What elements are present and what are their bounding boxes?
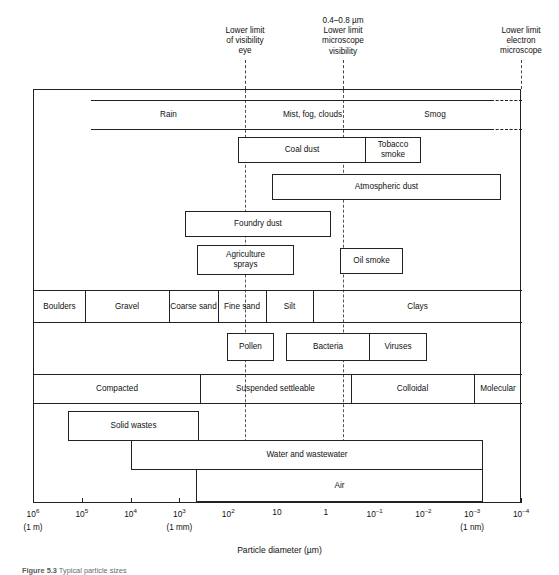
callout-electron-microscope: Lower limit electron microscope: [481, 26, 559, 57]
box-bacteria: Bacteria: [286, 333, 370, 361]
box-coal-dust: Coal dust: [238, 137, 366, 163]
box-oil-smoke: Oil smoke: [340, 248, 403, 274]
box-agriculture-sprays: Agriculture sprays: [197, 245, 294, 275]
segment-colloidal: Colloidal: [351, 374, 474, 404]
axis-unit-label: (1 nm): [460, 523, 484, 532]
segment-coarse-sand: Coarse sand: [169, 290, 218, 323]
callout-microscope-visibility: 0.4–0.8 µm Lower limit microscope visibi…: [303, 16, 383, 57]
axis-tick-label: 106: [27, 507, 40, 519]
figure-caption-label: Figure 5.3: [22, 566, 57, 575]
box-foundry-dust: Foundry dust: [185, 211, 331, 237]
axis-tick-label: 10–3: [464, 507, 480, 519]
row-meteorological-band-dashed-tail: [491, 100, 522, 130]
axis-tick-label: 105: [75, 507, 88, 519]
figure-caption: Figure 5.3 Typical particle sizes: [22, 566, 127, 575]
band-tail-rule-top: [491, 100, 522, 101]
axis-unit-label: (1 mm): [166, 523, 192, 532]
row-meteorological-band: Rain Mist, fog, clouds Smog: [91, 100, 491, 130]
axis-tick-label: 10: [272, 507, 281, 517]
segment-mist-fog-clouds: Mist, fog, clouds: [246, 100, 379, 130]
axis-tick-label: 1: [323, 507, 328, 517]
row-soil-classification-band: Boulders Gravel Coarse sand Fine sand Si…: [34, 290, 522, 323]
row-bacteria-viruses-group: Bacteria Viruses: [286, 333, 427, 361]
box-pollen: Pollen: [227, 333, 274, 361]
figure-caption-text: Typical particle sizes: [59, 566, 127, 575]
axis-tick-label: 10–2: [415, 507, 431, 519]
segment-smog: Smog: [379, 100, 491, 130]
callout-stem-microscope-visibility: [343, 60, 344, 89]
segment-gravel: Gravel: [85, 290, 169, 323]
box-air: Air: [196, 469, 483, 502]
callout-stem-electron-microscope: [521, 60, 522, 89]
callout-visibility-eye: Lower limit of visibility eye: [205, 26, 285, 57]
axis-title: Particle diameter (µm): [0, 545, 559, 555]
segment-clays: Clays: [313, 290, 522, 323]
axis-unit-label: (1 m): [23, 523, 42, 532]
box-solid-wastes: Solid wastes: [68, 411, 199, 441]
axis-tick: [179, 498, 180, 503]
band-tail-rule-bottom: [491, 129, 522, 130]
axis-tick-label: 103: [173, 507, 186, 519]
row-coal-tobacco-group: Coal dust Tobacco smoke: [238, 137, 421, 163]
box-atmospheric-dust: Atmospheric dust: [272, 174, 501, 200]
segment-boulders: Boulders: [34, 290, 85, 323]
axis-tick: [521, 498, 522, 503]
segment-compacted: Compacted: [34, 374, 200, 404]
segment-molecular: Molecular: [474, 374, 522, 404]
box-water-and-wastewater: Water and wastewater: [131, 440, 483, 470]
box-tobacco-smoke: Tobacco smoke: [365, 137, 421, 163]
axis-tick: [131, 498, 132, 503]
axis-tick-label: 10–1: [366, 507, 382, 519]
row-water-classification-band: Compacted Suspended settleable Colloidal…: [34, 374, 522, 404]
axis-tick: [33, 498, 34, 503]
segment-silt: Silt: [266, 290, 313, 323]
axis-tick: [82, 498, 83, 503]
callout-stem-visibility-eye: [245, 60, 246, 89]
axis-tick-label: 104: [124, 507, 137, 519]
axis-tick-label: 102: [222, 507, 235, 519]
segment-rain: Rain: [91, 100, 246, 130]
chart-frame: Rain Mist, fog, clouds Smog Coal dust To…: [33, 89, 521, 503]
box-viruses: Viruses: [369, 333, 427, 361]
segment-fine-sand: Fine sand: [218, 290, 266, 323]
axis-tick-label: 10–4: [513, 507, 529, 519]
segment-suspended-settleable: Suspended settleable: [200, 374, 351, 404]
